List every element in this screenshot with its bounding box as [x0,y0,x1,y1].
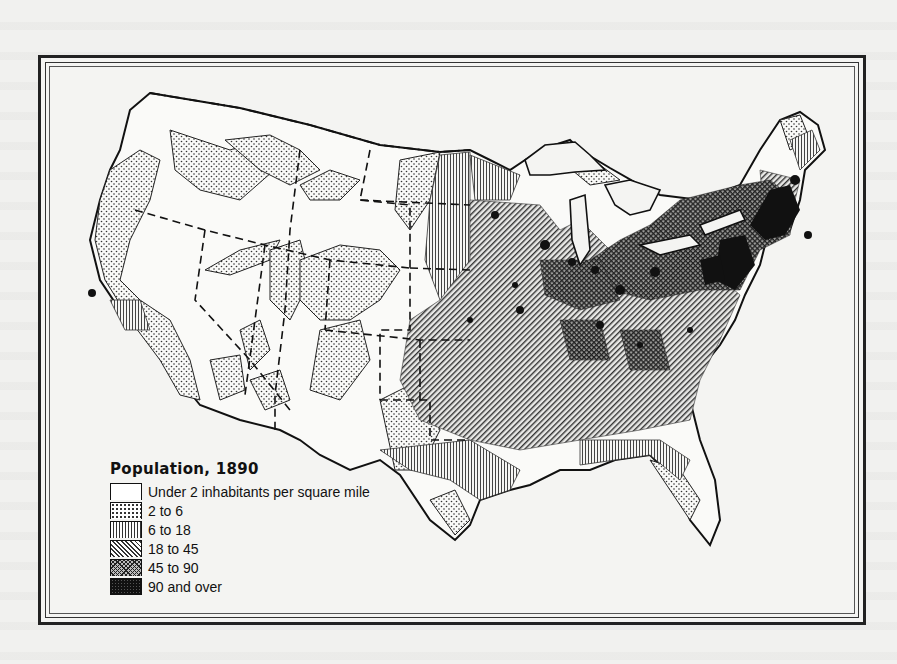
legend-item-under-2: Under 2 inhabitants per square mile [110,482,370,501]
legend-item-18-to-45: 18 to 45 [110,539,370,558]
legend-swatch-diagonal-lines [110,540,142,557]
map-legend: Population, 1890 Under 2 inhabitants per… [110,460,370,596]
legend-swatch-blank [110,483,142,500]
legend-label: 18 to 45 [148,541,199,557]
legend-label: 2 to 6 [148,503,183,519]
legend-item-2-to-6: 2 to 6 [110,501,370,520]
legend-label: 6 to 18 [148,522,191,538]
legend-item-45-to-90: 45 to 90 [110,558,370,577]
legend-swatch-vertical-lines [110,521,142,538]
legend-swatch-dots [110,502,142,519]
legend-item-6-to-18: 6 to 18 [110,520,370,539]
legend-swatch-cross-hatch [110,559,142,576]
legend-title: Population, 1890 [110,460,370,478]
legend-swatch-solid-black [110,578,142,595]
legend-label: Under 2 inhabitants per square mile [148,484,370,500]
legend-label: 90 and over [148,579,222,595]
legend-item-90-and-over: 90 and over [110,577,370,596]
legend-label: 45 to 90 [148,560,199,576]
